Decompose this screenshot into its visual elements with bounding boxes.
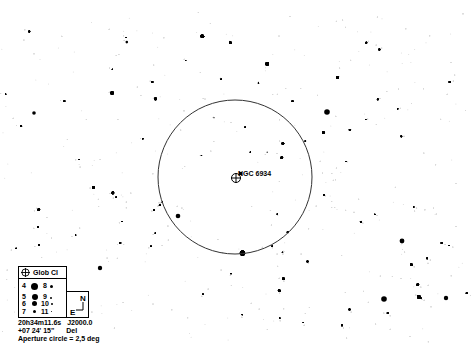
orientation-arrows-icon — [75, 302, 85, 312]
legend-mag-dot — [33, 310, 36, 313]
legend-mag-dot — [50, 285, 53, 288]
legend-mag-label: 6 — [22, 300, 26, 308]
target-label: NGC 6934 — [238, 170, 271, 178]
constellation-value: Del — [66, 327, 77, 334]
legend-mag-dot — [31, 283, 38, 290]
globular-cluster-icon — [21, 268, 30, 277]
orientation-indicator: N E — [66, 291, 89, 318]
legend-mag-dot — [32, 301, 37, 306]
aperture-circle — [158, 100, 312, 254]
ra-value: 20h34m11.6s — [18, 319, 61, 326]
legend: Glob Cl 4 8 5 9 6 10 7 11 — [18, 266, 67, 318]
legend-mag-label: 11 — [41, 308, 48, 316]
legend-mag-dot — [50, 297, 52, 299]
legend-mag-dot — [51, 303, 53, 305]
epoch-value: J2000.0 — [67, 319, 92, 326]
legend-header: Glob Cl — [19, 267, 66, 279]
legend-mag-label: 10 — [41, 300, 49, 308]
dec-value: +07 24' 15" — [18, 327, 54, 334]
legend-mag-dot — [32, 294, 38, 300]
legend-mag-label: 4 — [22, 282, 26, 290]
legend-mag-label: 8 — [43, 282, 47, 290]
coordinates-line-2: +07 24' 15" Del — [18, 327, 77, 335]
legend-type-label: Glob Cl — [33, 267, 58, 278]
legend-mag-dot — [51, 311, 52, 312]
coordinates-line-1: 20h34m11.6s J2000.0 — [18, 319, 92, 327]
aperture-label: Aperture circle = 2,5 deg — [18, 335, 100, 343]
legend-mag-label: 7 — [22, 308, 26, 316]
